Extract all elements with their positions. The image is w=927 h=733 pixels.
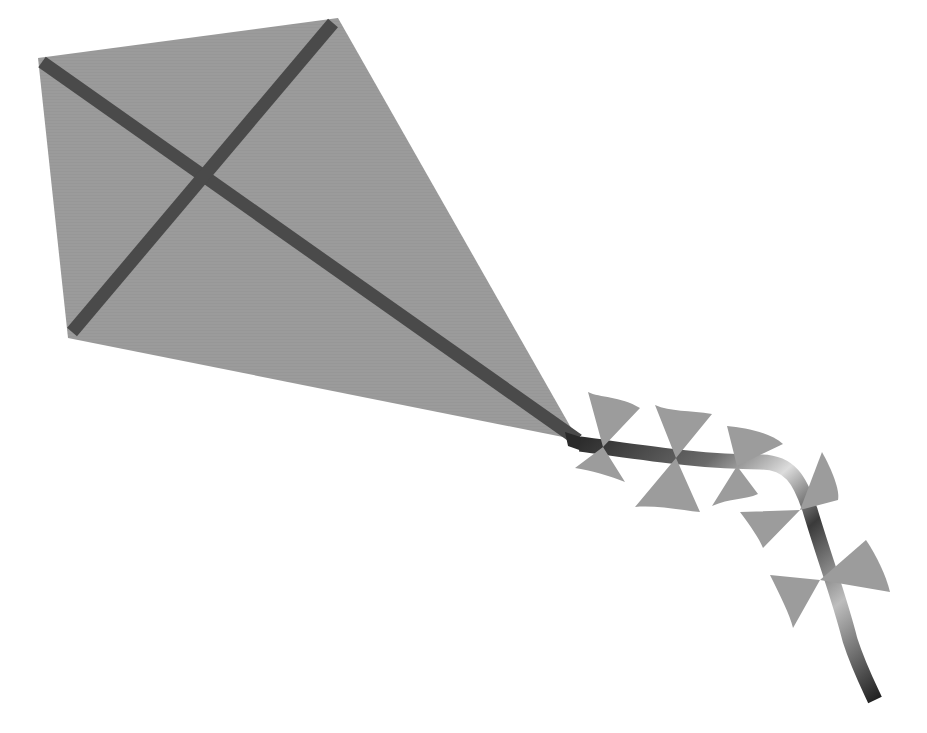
bow-1 [575,392,640,482]
kite-scene [0,0,927,733]
